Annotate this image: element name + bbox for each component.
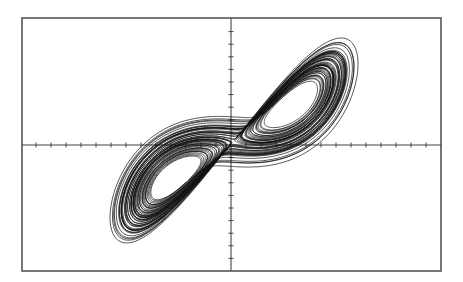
chart-stage [0,0,463,282]
attractor-trajectory [110,38,358,243]
attractor-chart [0,0,463,282]
